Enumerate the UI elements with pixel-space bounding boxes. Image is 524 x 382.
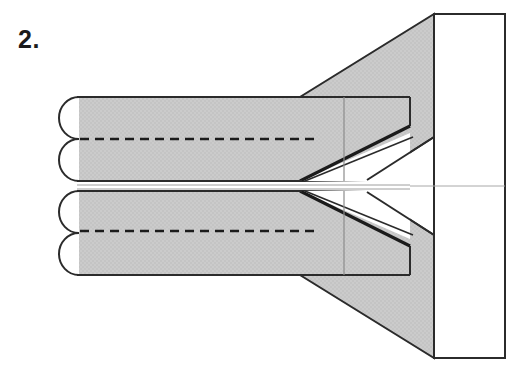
loop-upper-outer-icon [59, 97, 79, 139]
left-folded-loops [59, 97, 79, 275]
origami-diagram [0, 0, 524, 382]
origami-figure: 2. [0, 0, 524, 382]
loop-lower-outer-icon [59, 233, 79, 275]
loop-lower-inner-icon [59, 191, 79, 233]
center-channel [77, 182, 410, 190]
loop-upper-inner-icon [59, 139, 79, 181]
